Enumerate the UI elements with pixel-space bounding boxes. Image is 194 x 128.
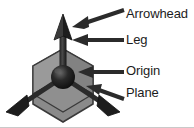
origin-specular-highlight [54, 68, 61, 73]
callout-arrow-leg [72, 34, 124, 46]
callout-head-arrowhead [72, 16, 89, 29]
label-origin: Origin [126, 64, 160, 77]
arrowhead-lower-left [6, 95, 29, 116]
origin-ball [51, 65, 75, 89]
origin-sphere [51, 65, 75, 89]
diagram-canvas: Arrowhead Leg Origin Plane [0, 0, 194, 128]
callout-line-arrowhead [85, 10, 124, 23]
label-arrowhead: Arrowhead [126, 7, 188, 20]
callout-arrow-arrowhead [72, 10, 124, 29]
label-leg: Leg [126, 33, 147, 46]
label-plane: Plane [126, 86, 159, 99]
callout-head-leg [72, 34, 88, 46]
